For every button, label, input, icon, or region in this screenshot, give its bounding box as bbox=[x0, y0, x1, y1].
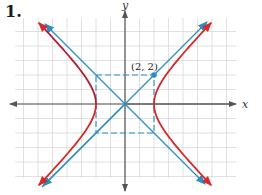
asymptote-positive-slope-lower bbox=[43, 104, 125, 186]
hyperbola-graph: x y (2, 2) bbox=[0, 0, 262, 195]
x-axis-label: x bbox=[242, 98, 249, 111]
y-axis-label: y bbox=[121, 0, 129, 12]
asymptote-negative-slope-upper bbox=[45, 24, 125, 104]
asymptote-negative-slope bbox=[125, 104, 205, 184]
point-label: (2, 2) bbox=[131, 61, 158, 72]
point-2-2 bbox=[151, 72, 157, 78]
